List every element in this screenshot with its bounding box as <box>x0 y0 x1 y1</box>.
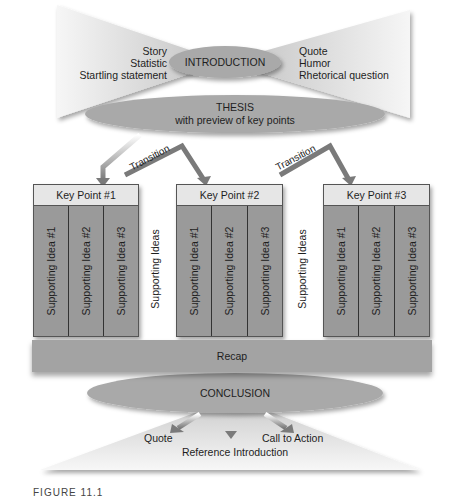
supporting-idea-column: Supporting Idea #1 <box>177 206 212 336</box>
key-point-title: Key Point #3 <box>324 185 429 206</box>
thesis-subtitle: with preview of key points <box>135 114 335 126</box>
supporting-idea-column: Supporting Idea #2 <box>212 206 247 336</box>
supporting-idea-column: Supporting Idea #2 <box>69 206 104 336</box>
conclusion-title: CONCLUSION <box>160 387 310 399</box>
supporting-idea-column: Supporting Idea #3 <box>248 206 282 336</box>
supporting-idea-column: Supporting Idea #3 <box>395 206 429 336</box>
key-point-3: Key Point #3 Supporting Idea #1 Supporti… <box>323 184 430 337</box>
supporting-idea-label: Supporting Idea #1 <box>188 227 200 316</box>
supporting-idea-label: Supporting Idea #3 <box>115 227 127 316</box>
supporting-idea-label: Supporting Idea #3 <box>259 227 271 316</box>
supporting-idea-column: Supporting Idea #2 <box>359 206 394 336</box>
conclusion-item-reference-introduction: Reference Introduction <box>160 446 310 458</box>
supporting-ideas-text: Supporting Ideas <box>149 229 161 308</box>
thesis-title: THESIS <box>135 101 335 113</box>
intro-right-item: Rhetorical question <box>299 69 389 81</box>
recap-bar: Recap <box>32 340 432 372</box>
intro-right-list: Quote Humor Rhetorical question <box>299 45 389 81</box>
supporting-ideas-text: Supporting Ideas <box>296 229 308 308</box>
key-point-title: Key Point #2 <box>177 185 282 206</box>
supporting-idea-label: Supporting Idea #1 <box>45 227 57 316</box>
conclusion-item-quote: Quote <box>144 432 173 444</box>
conclusion-item-call-to-action: Call to Action <box>262 432 323 444</box>
intro-right-item: Humor <box>299 57 389 69</box>
key-point-title: Key Point #1 <box>34 185 138 206</box>
supporting-idea-column: Supporting Idea #3 <box>104 206 138 336</box>
key-point-2: Key Point #2 Supporting Idea #1 Supporti… <box>176 184 283 337</box>
supporting-idea-column: Supporting Idea #1 <box>34 206 69 336</box>
intro-left-list: Story Statistic Startling statement <box>79 45 167 81</box>
supporting-idea-label: Supporting Idea #1 <box>335 227 347 316</box>
intro-right-item: Quote <box>299 45 389 57</box>
supporting-ideas-label-2: Supporting Ideas <box>292 204 312 334</box>
supporting-idea-label: Supporting Idea #3 <box>406 227 418 316</box>
intro-left-item: Startling statement <box>79 69 167 81</box>
supporting-ideas-label-1: Supporting Ideas <box>145 204 165 334</box>
introduction-title: INTRODUCTION <box>169 56 281 68</box>
supporting-idea-label: Supporting Idea #2 <box>370 227 382 316</box>
figure-caption: FIGURE 11.1 <box>33 487 103 496</box>
key-point-1: Key Point #1 Supporting Idea #1 Supporti… <box>33 184 139 337</box>
supporting-idea-label: Supporting Idea #2 <box>80 227 92 316</box>
supporting-idea-column: Supporting Idea #1 <box>324 206 359 336</box>
intro-left-item: Story <box>79 45 167 57</box>
supporting-idea-label: Supporting Idea #2 <box>223 227 235 316</box>
intro-left-item: Statistic <box>79 57 167 69</box>
